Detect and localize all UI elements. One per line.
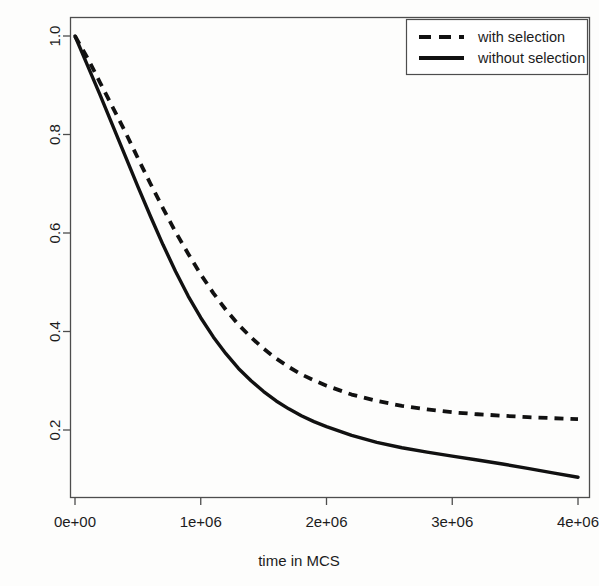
x-tick-label: 3e+06: [431, 513, 473, 530]
data-series-group: [75, 36, 578, 477]
y-tick-label: 0.4: [46, 321, 63, 342]
x-tick-label: 0e+00: [54, 513, 96, 530]
x-axis-tick-labels: 0e+001e+062e+063e+064e+06: [54, 513, 599, 530]
y-tick-label: 0.6: [46, 223, 63, 244]
plot-frame: [71, 18, 590, 498]
y-tick-label: 0.2: [46, 420, 63, 441]
series-line-with-selection: [75, 36, 578, 419]
y-axis-tick-labels: 0.20.40.60.81.0: [46, 26, 63, 441]
x-tick-label: 4e+06: [557, 513, 599, 530]
x-axis-ticks: [75, 498, 578, 506]
series-line-without-selection: [75, 36, 578, 477]
x-tick-label: 2e+06: [305, 513, 347, 530]
x-tick-label: 1e+06: [180, 513, 222, 530]
chart-figure: 0.20.40.60.81.0 0e+001e+062e+063e+064e+0…: [0, 0, 599, 586]
y-tick-label: 1.0: [46, 26, 63, 47]
legend-box: [407, 20, 588, 75]
chart-legend: with selection without selection: [407, 20, 588, 75]
y-tick-label: 0.8: [46, 124, 63, 145]
legend-label-with-selection: with selection: [477, 29, 565, 45]
chart-canvas: 0.20.40.60.81.0 0e+001e+062e+063e+064e+0…: [0, 0, 599, 586]
y-axis-ticks: [63, 36, 71, 430]
x-axis-title: time in MCS: [258, 552, 340, 569]
legend-label-without-selection: without selection: [477, 50, 585, 66]
